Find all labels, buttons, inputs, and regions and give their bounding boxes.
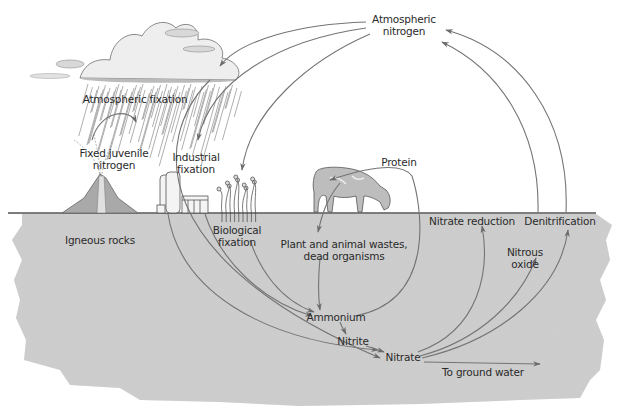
label-nitrate-reduction: Nitrate reduction <box>429 215 515 227</box>
cloud-icon <box>30 22 239 82</box>
label-atmospheric-fixation: Atmospheric fixation <box>83 93 188 105</box>
label-biological-fixation: Biological fixation <box>213 224 262 248</box>
label-protein: Protein <box>381 156 416 168</box>
arrow-atmospheric-nitrogen-to-atmospheric-fixation <box>220 22 366 66</box>
label-nitrate: Nitrate <box>386 351 421 363</box>
label-nitrous-oxide: Nitrous oxide <box>507 246 543 270</box>
arrow-nitrate-reduction-to-atmospheric-nitrogen <box>442 42 538 212</box>
arrow-atmospheric-nitrogen-to-biological-fixation <box>242 34 370 170</box>
label-line: oxide <box>507 258 543 270</box>
plant-leaf <box>251 177 255 181</box>
label-line: Atmospheric <box>372 13 436 25</box>
label-igneous-rocks: Igneous rocks <box>65 234 135 246</box>
rain-streak <box>213 86 226 132</box>
label-fixed-juvenile-nitrogen: Fixed juvenile nitrogen <box>80 147 149 171</box>
label-line: fixation <box>213 236 262 248</box>
label-line: dead organisms <box>281 250 408 262</box>
label-plant-animal-wastes: Plant and animal wastes, dead organisms <box>281 238 408 262</box>
label-line: nitrogen <box>80 159 149 171</box>
plant-leaf <box>217 187 221 191</box>
plant-leaf <box>234 175 238 179</box>
label-line: Nitrous <box>507 246 543 258</box>
plant-leaf <box>242 183 246 187</box>
label-atmospheric-nitrogen: Atmospheric nitrogen <box>372 13 436 37</box>
label-ammonium: Ammonium <box>307 311 366 323</box>
label-line: Fixed juvenile <box>80 147 149 159</box>
label-line: nitrogen <box>372 25 436 37</box>
label-line: Plant and animal wastes, <box>281 238 408 250</box>
rain-streak <box>129 84 143 134</box>
arrow-denitrification-to-atmospheric-nitrogen <box>446 30 566 212</box>
label-line: fixation <box>172 163 219 175</box>
plant-leaf <box>225 181 229 185</box>
diagram-canvas <box>0 0 628 416</box>
arrow-atmospheric-nitrogen-to-industrial-fixation <box>198 28 366 140</box>
label-to-ground-water: To ground water <box>442 366 524 378</box>
nitrogen-cycle-diagram: Atmospheric nitrogen Atmospheric fixatio… <box>0 0 628 416</box>
label-nitrite: Nitrite <box>337 335 368 347</box>
label-line: Biological <box>213 224 262 236</box>
rain-streak <box>200 87 219 156</box>
label-denitrification: Denitrification <box>524 215 595 227</box>
factory-icon <box>157 172 208 213</box>
label-industrial-fixation: Industrial fixation <box>172 151 219 175</box>
label-line: Industrial <box>172 151 219 163</box>
